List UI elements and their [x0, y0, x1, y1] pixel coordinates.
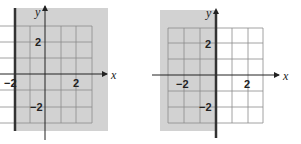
x-axis-label: x	[110, 68, 117, 82]
figure: y x 2 −2 2 −2 y x 2 −2 2 −2	[0, 0, 301, 144]
shaded-region	[15, 8, 108, 131]
left-graph: y x 2 −2 2 −2	[0, 5, 117, 140]
tick-label-x-pos: 2	[73, 77, 79, 89]
tick-label-y-neg: −2	[30, 101, 43, 113]
y-axis-label: y	[34, 5, 41, 19]
tick-label-x-neg: −2	[176, 78, 189, 90]
tick-label-y-neg: −2	[199, 101, 212, 113]
x-axis-label: x	[282, 69, 289, 83]
tick-label-y-pos: 2	[35, 36, 41, 48]
right-graph: y x 2 −2 2 −2	[152, 6, 289, 138]
tick-label-x-pos: 2	[244, 78, 250, 90]
y-axis-label: y	[205, 6, 212, 20]
tick-label-y-pos: 2	[205, 38, 211, 50]
tick-label-x-neg: −2	[4, 77, 17, 89]
